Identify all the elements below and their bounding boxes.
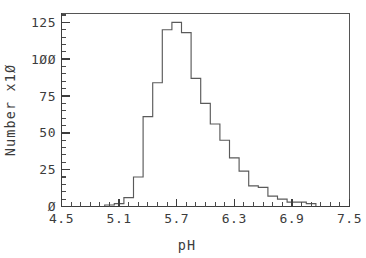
plot-background bbox=[61, 13, 350, 207]
ph-histogram-chart: Ø2550751ØØ125 4.55.15.76.36.97.5 pH Numb… bbox=[0, 0, 366, 258]
y-axis-tick-labels: Ø2550751ØØ125 bbox=[31, 15, 56, 214]
x-tick-label: 6.9 bbox=[279, 211, 304, 226]
x-axis-title: pH bbox=[178, 237, 196, 253]
y-tick-label: 75 bbox=[39, 89, 56, 104]
y-tick-label: 125 bbox=[31, 15, 56, 30]
x-tick-label: 6.3 bbox=[222, 211, 247, 226]
x-tick-label: 7.5 bbox=[337, 211, 362, 226]
y-tick-label: 25 bbox=[39, 162, 56, 177]
x-axis-tick-labels: 4.55.15.76.36.97.5 bbox=[49, 211, 362, 226]
y-axis-title: Number x1Ø bbox=[2, 64, 18, 156]
y-tick-label: 50 bbox=[39, 125, 56, 140]
x-tick-label: 5.7 bbox=[164, 211, 189, 226]
x-tick-label: 4.5 bbox=[49, 211, 74, 226]
y-tick-label: 1ØØ bbox=[31, 52, 56, 67]
x-tick-label: 5.1 bbox=[107, 211, 132, 226]
figure-container: Ø2550751ØØ125 4.55.15.76.36.97.5 pH Numb… bbox=[0, 0, 366, 258]
